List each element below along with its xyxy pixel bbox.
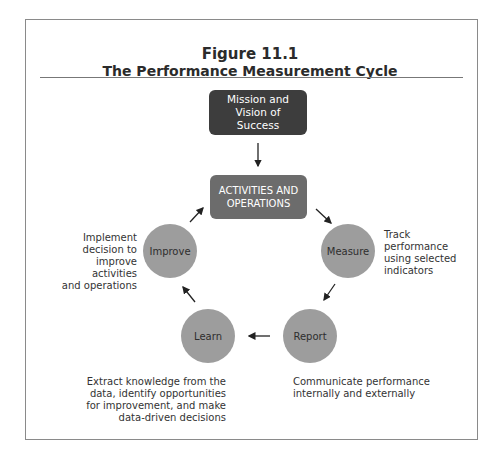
arrow-improve-to-activities: [190, 208, 203, 222]
arrow-activities-to-measure: [316, 209, 331, 223]
cycle-arrows: [0, 0, 500, 465]
arrow-learn-to-improve: [183, 287, 195, 302]
arrow-measure-to-report: [324, 284, 335, 300]
